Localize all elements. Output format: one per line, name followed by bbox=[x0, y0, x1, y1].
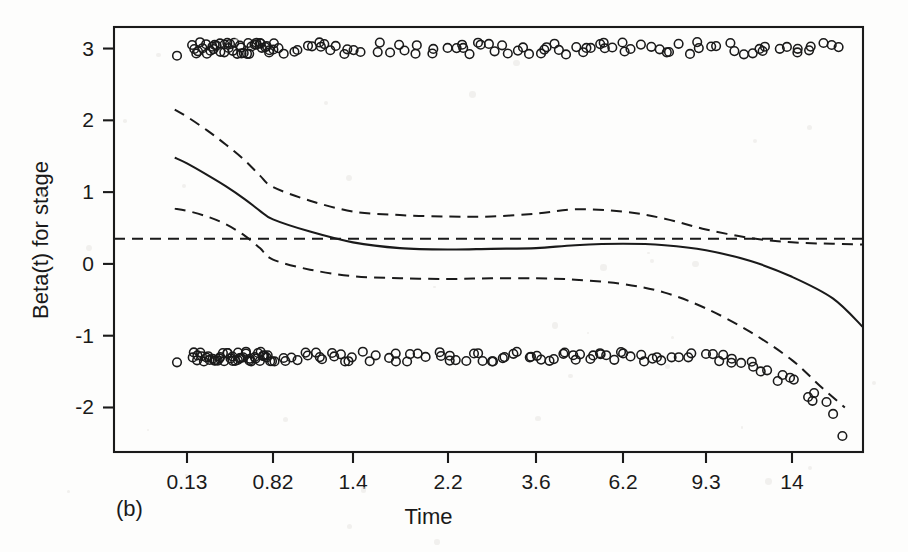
scatter-point bbox=[829, 410, 838, 419]
scatter-point bbox=[318, 355, 327, 364]
scatter-point bbox=[465, 50, 474, 59]
x-axis-title: Time bbox=[404, 504, 452, 530]
x-tick-label-14: 14 bbox=[780, 470, 803, 494]
scan-speck bbox=[182, 184, 186, 188]
confidence-band-line bbox=[175, 110, 863, 245]
scatter-point bbox=[610, 356, 619, 365]
scan-speck bbox=[156, 53, 160, 57]
scatter-point bbox=[421, 353, 430, 362]
x-tick-label-3.6: 3.6 bbox=[521, 470, 550, 494]
x-tick-label-2.2: 2.2 bbox=[433, 470, 462, 494]
scatter-point bbox=[838, 432, 847, 441]
scan-speck bbox=[741, 426, 743, 428]
scatter-point bbox=[719, 351, 728, 360]
panel-label: (b) bbox=[116, 496, 143, 522]
scan-speck bbox=[650, 259, 654, 263]
scatter-point bbox=[386, 48, 395, 57]
scatter-point bbox=[490, 47, 499, 56]
beta-estimate-line bbox=[175, 158, 863, 327]
y-tick-label--2: -2 bbox=[75, 395, 94, 419]
scatter-point bbox=[293, 46, 302, 55]
axis-ticks bbox=[103, 49, 792, 463]
y-tick-label-1: 1 bbox=[82, 180, 94, 204]
scatter-point bbox=[730, 47, 739, 56]
scatter-point bbox=[462, 357, 471, 366]
scatter-point bbox=[485, 40, 494, 49]
scatter-point bbox=[478, 357, 487, 366]
scatter-point bbox=[674, 40, 683, 49]
scatter-point bbox=[726, 39, 735, 48]
scan-speck bbox=[513, 60, 520, 67]
scatter-point bbox=[693, 38, 702, 47]
scan-speck bbox=[692, 261, 698, 267]
scatter-point bbox=[173, 358, 182, 367]
scatter-point bbox=[498, 41, 507, 50]
scatter-point bbox=[715, 357, 724, 366]
scatter-point bbox=[451, 356, 460, 365]
scatter-point bbox=[411, 49, 420, 58]
scatter-point bbox=[279, 49, 288, 58]
scatter-point bbox=[819, 39, 828, 48]
x-tick-label-9.3: 9.3 bbox=[691, 470, 720, 494]
scatter-point bbox=[525, 50, 534, 59]
scan-speck bbox=[587, 332, 589, 334]
scatter-point bbox=[737, 359, 746, 368]
scan-speck bbox=[807, 125, 812, 130]
y-tick-label-0: 0 bbox=[82, 252, 94, 276]
scatter-point bbox=[359, 347, 368, 356]
scan-speck bbox=[434, 539, 440, 545]
scatter-point bbox=[550, 39, 559, 48]
scan-speck bbox=[665, 364, 670, 369]
scatter-point bbox=[504, 49, 513, 58]
scan-speck bbox=[41, 193, 45, 197]
scatter-point bbox=[740, 50, 749, 59]
scan-speck bbox=[123, 119, 126, 122]
scatter-point bbox=[173, 51, 182, 60]
scatter-point bbox=[443, 44, 452, 53]
y-tick-label--1: -1 bbox=[75, 324, 94, 348]
scatter-point bbox=[562, 50, 571, 59]
y-tick-label-3: 3 bbox=[82, 37, 94, 61]
scatter-point bbox=[400, 46, 409, 55]
scan-speck bbox=[361, 487, 366, 492]
scan-speck bbox=[433, 286, 435, 288]
scan-speck bbox=[185, 474, 188, 477]
scatter-point bbox=[695, 44, 704, 53]
scatter-point bbox=[686, 50, 695, 59]
y-tick-label-2: 2 bbox=[82, 108, 94, 132]
scatter-point bbox=[637, 40, 646, 49]
scatter-point bbox=[371, 351, 380, 360]
scatter-point bbox=[647, 43, 656, 52]
scatter-point bbox=[373, 48, 382, 57]
scatter-point bbox=[476, 40, 485, 49]
beta-estimate-curve bbox=[175, 158, 863, 327]
scan-speck bbox=[600, 264, 606, 270]
scatter-point bbox=[413, 41, 422, 50]
figure-panel: 0.130.821.42.23.66.29.314 3210-1-2 Time … bbox=[0, 0, 908, 552]
x-tick-label-6.2: 6.2 bbox=[608, 470, 637, 494]
scatter-point bbox=[822, 398, 831, 407]
y-axis-title: Beta(t) for stage bbox=[28, 161, 54, 319]
scatter-point bbox=[626, 352, 635, 361]
scatter-point bbox=[618, 38, 627, 47]
scatter-point bbox=[376, 38, 385, 47]
scan-speck bbox=[535, 416, 540, 421]
scan-speck bbox=[147, 429, 149, 431]
scan-speck bbox=[872, 381, 876, 385]
x-tick-label-0.82: 0.82 bbox=[253, 470, 294, 494]
